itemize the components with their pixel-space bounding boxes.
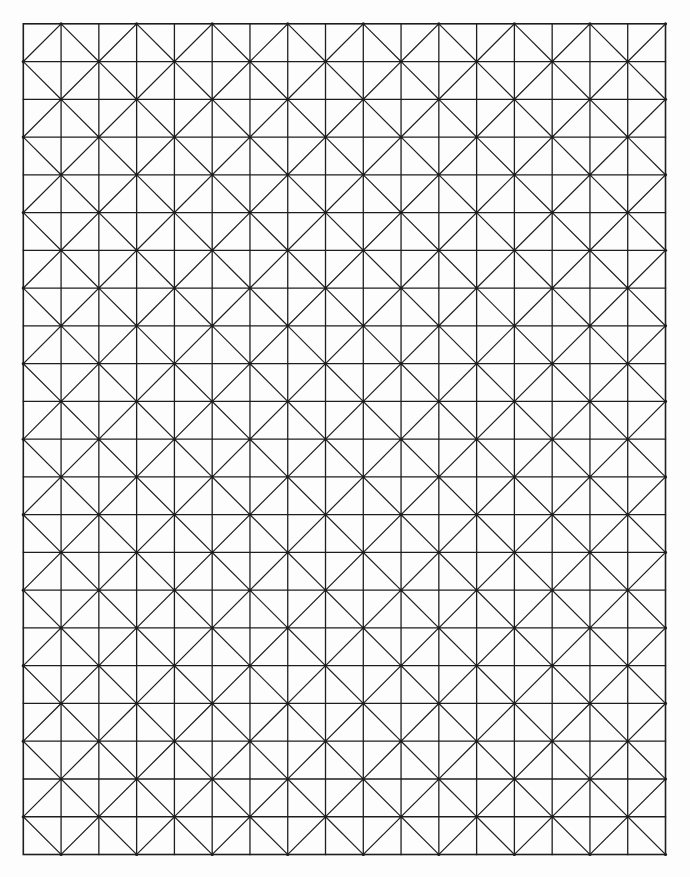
grid-lines [23, 24, 665, 855]
diamond-grid-pattern [0, 0, 690, 877]
graph-paper-sheet [0, 0, 690, 877]
